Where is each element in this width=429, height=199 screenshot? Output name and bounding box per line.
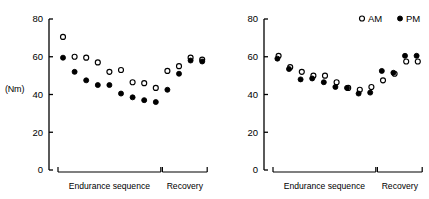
data-point-pm: [130, 95, 135, 100]
legend-open-circle-icon: [360, 16, 365, 21]
data-point-pm: [356, 91, 361, 96]
segment-bracket-label: Endurance sequence: [69, 181, 150, 191]
data-point-pm: [119, 91, 124, 96]
chart-panel-left: (Nm) 020406080Endurance sequenceRecovery: [0, 0, 214, 199]
chart-panel-right: 020406080Endurance sequenceRecoveryAMPM: [215, 0, 429, 199]
y-tick-label: 80: [247, 13, 258, 24]
data-point-am: [177, 64, 182, 69]
data-point-pm: [310, 76, 315, 81]
y-tick-label: 20: [32, 127, 43, 138]
y-tick-label: 40: [32, 89, 43, 100]
figure-container: (Nm) 020406080Endurance sequenceRecovery…: [0, 0, 429, 199]
data-point-am: [369, 84, 374, 89]
segment-bracket-label: Endurance sequence: [284, 181, 365, 191]
segment-bracket: [377, 167, 422, 172]
data-point-am: [323, 73, 328, 78]
data-point-pm: [84, 78, 89, 83]
data-point-am: [119, 67, 124, 72]
data-point-am: [142, 81, 147, 86]
data-point-pm: [142, 98, 147, 103]
y-tick-label: 0: [38, 164, 43, 175]
data-point-pm: [321, 80, 326, 85]
data-point-pm: [95, 83, 100, 88]
data-point-am: [404, 59, 409, 64]
data-point-am: [334, 80, 339, 85]
data-point-pm: [72, 69, 77, 74]
data-point-pm: [188, 58, 193, 63]
data-point-pm: [368, 90, 373, 95]
y-tick-label: 60: [247, 51, 258, 62]
data-point-am: [107, 69, 112, 74]
data-point-am: [381, 78, 386, 83]
data-point-pm: [391, 70, 396, 75]
plot-area-right: 020406080Endurance sequenceRecoveryAMPM: [215, 0, 429, 199]
data-point-pm: [275, 56, 280, 61]
plot-area-left: 020406080Endurance sequenceRecovery: [0, 0, 214, 199]
segment-bracket-label: Recovery: [167, 181, 204, 191]
data-point-pm: [153, 100, 158, 105]
data-point-pm: [61, 55, 66, 60]
segment-bracket: [273, 167, 376, 172]
data-point-pm: [379, 68, 384, 73]
y-tick-label: 0: [253, 164, 258, 175]
data-point-am: [61, 34, 66, 39]
data-point-pm: [414, 53, 419, 58]
y-tick-label: 40: [247, 89, 258, 100]
data-point-am: [84, 55, 89, 60]
y-tick-label: 80: [32, 13, 43, 24]
data-point-am: [165, 68, 170, 73]
data-point-pm: [345, 85, 350, 90]
y-tick-label: 20: [247, 127, 258, 138]
data-point-pm: [403, 53, 408, 58]
legend-label-pm: PM: [406, 13, 420, 24]
legend-label-am: AM: [368, 13, 382, 24]
data-point-pm: [333, 84, 338, 89]
data-point-pm: [200, 59, 205, 64]
segment-bracket: [162, 167, 207, 172]
legend: AMPM: [360, 13, 421, 24]
data-point-pm: [298, 77, 303, 82]
data-point-pm: [177, 71, 182, 76]
legend-filled-circle-icon: [398, 16, 403, 21]
data-point-am: [299, 69, 304, 74]
data-point-am: [72, 54, 77, 59]
y-tick-label: 60: [32, 51, 43, 62]
data-point-am: [95, 60, 100, 65]
data-point-pm: [287, 67, 292, 72]
data-point-pm: [107, 83, 112, 88]
data-point-am: [415, 59, 420, 64]
data-point-am: [130, 80, 135, 85]
data-point-am: [153, 85, 158, 90]
data-point-pm: [165, 87, 170, 92]
segment-bracket-label: Recovery: [382, 181, 419, 191]
segment-bracket: [58, 167, 161, 172]
